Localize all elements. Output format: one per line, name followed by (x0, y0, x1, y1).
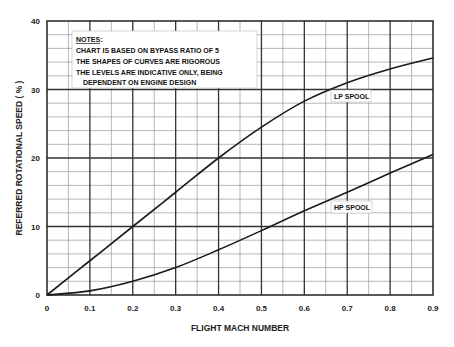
y-axis-ticks: 010203040 (31, 17, 40, 300)
svg-text:LP SPOOL: LP SPOOL (334, 93, 370, 100)
y-tick-label: 10 (31, 223, 40, 232)
y-tick-label: 20 (31, 154, 40, 163)
x-tick-label: 0.3 (170, 304, 182, 313)
line-chart: 010203040 00.10.20.30.40.50.60.70.80.9 N… (0, 0, 454, 347)
x-tick-label: 0.8 (385, 304, 397, 313)
x-axis-ticks: 00.10.20.30.40.50.60.70.80.9 (45, 304, 439, 313)
x-tick-label: 0.1 (84, 304, 96, 313)
note-line-2: THE SHAPES OF CURVES ARE RIGOROUS (76, 58, 220, 65)
note-line-4: DEPENDENT ON ENGINE DESIGN (83, 79, 196, 86)
y-axis-label: REFERRED ROTATIONAL SPEED ( % ) (14, 80, 24, 235)
y-tick-label: 0 (36, 291, 41, 300)
x-tick-label: 0.7 (342, 304, 354, 313)
note-line-1: CHART IS BASED ON BYPASS RATIO OF 5 (76, 47, 219, 54)
y-tick-label: 30 (31, 86, 40, 95)
svg-text:NOTES:: NOTES: (76, 36, 102, 43)
x-axis-label: FLIGHT MACH NUMBER (191, 323, 289, 333)
svg-text:HP SPOOL: HP SPOOL (334, 204, 371, 211)
x-tick-label: 0.5 (256, 304, 268, 313)
x-tick-label: 0.2 (127, 304, 139, 313)
notes-box: NOTES: CHART IS BASED ON BYPASS RATIO OF… (72, 31, 257, 88)
notes-heading: NOTES (76, 36, 100, 43)
x-tick-label: 0 (45, 304, 50, 313)
x-tick-label: 0.4 (213, 304, 225, 313)
note-line-3: THE LEVELS ARE INDICATIVE ONLY, BEING (76, 69, 223, 77)
lp-spool-label: LP SPOOL (331, 90, 371, 102)
hp-spool-label: HP SPOOL (331, 201, 372, 213)
x-tick-label: 0.9 (427, 304, 439, 313)
x-tick-label: 0.6 (299, 304, 311, 313)
y-tick-label: 40 (31, 17, 40, 26)
